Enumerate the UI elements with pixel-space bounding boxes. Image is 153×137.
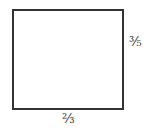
height-label: ⅗	[129, 34, 142, 49]
width-label: ⅔	[62, 111, 75, 126]
rectangle-shape	[12, 9, 124, 110]
